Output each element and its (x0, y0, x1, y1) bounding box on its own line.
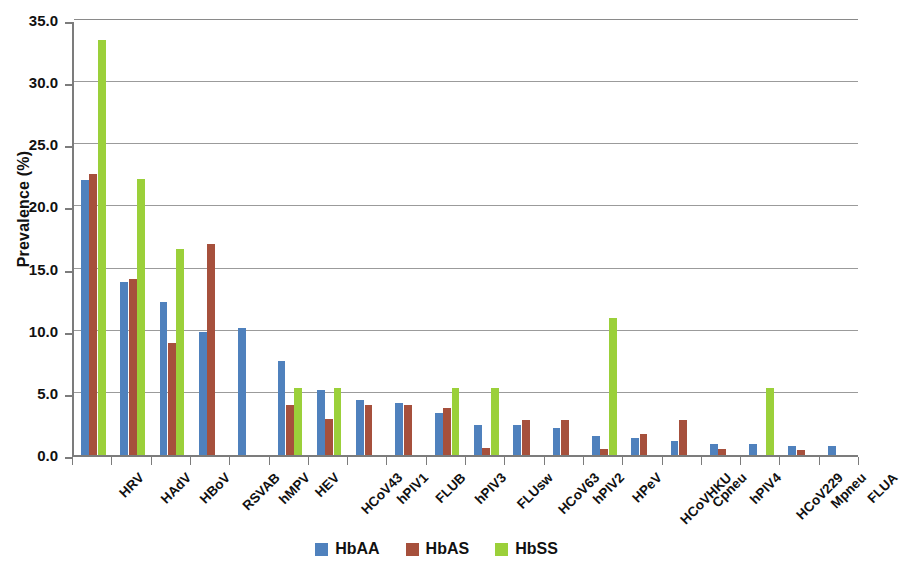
x-tick-mark (426, 457, 427, 465)
y-tick-label: 30.0 (0, 74, 58, 91)
legend-label: HbAA (335, 540, 379, 558)
x-tick-mark (544, 457, 545, 465)
bar (325, 419, 333, 455)
gridline (74, 268, 858, 269)
gridline (74, 143, 858, 144)
bar (600, 449, 608, 455)
x-tick-mark (504, 457, 505, 465)
x-tick-mark (819, 457, 820, 465)
y-tick-mark (65, 457, 72, 459)
x-tick-label: HEV (312, 470, 342, 500)
legend-item[interactable]: HbAS (406, 540, 470, 558)
bar (81, 180, 89, 455)
bar (482, 448, 490, 455)
bar (435, 413, 443, 455)
bar (238, 328, 246, 455)
gridline (74, 330, 858, 331)
bar (365, 405, 373, 455)
x-tick-label: HAdV (158, 470, 195, 507)
y-tick-mark (65, 208, 72, 210)
x-tick-label: hMPV (276, 470, 313, 507)
bar (395, 403, 403, 455)
x-tick-mark (190, 457, 191, 465)
y-tick-label: 25.0 (0, 136, 58, 153)
bar (679, 420, 687, 455)
y-tick-mark (65, 146, 72, 148)
bar (98, 40, 106, 455)
y-tick-label: 10.0 (0, 323, 58, 340)
bar (356, 400, 364, 455)
legend-swatch-icon (495, 543, 508, 556)
bar (286, 405, 294, 455)
y-tick-mark (65, 84, 72, 86)
x-tick-mark (308, 457, 309, 465)
x-tick-label: hPIV4 (747, 470, 784, 507)
x-tick-mark (347, 457, 348, 465)
legend-label: HbSS (515, 540, 558, 558)
bar (631, 438, 639, 455)
bar (443, 408, 451, 455)
bar (334, 388, 342, 455)
bar (766, 388, 774, 455)
bar (710, 444, 718, 455)
bar (137, 179, 145, 455)
bar (788, 446, 796, 455)
bar (609, 318, 617, 455)
x-tick-mark (779, 457, 780, 465)
bar (522, 420, 530, 455)
bar (278, 361, 286, 455)
bar (168, 343, 176, 455)
legend-item[interactable]: HbSS (495, 540, 558, 558)
x-tick-mark (858, 457, 859, 465)
bar (513, 425, 521, 455)
chart-legend: HbAAHbASHbSS (0, 540, 873, 558)
bar (474, 425, 482, 455)
plot-area (72, 22, 858, 457)
gridline (74, 19, 858, 20)
legend-item[interactable]: HbAA (315, 540, 379, 558)
gridline (74, 81, 858, 82)
bar (317, 390, 325, 455)
x-tick-mark (662, 457, 663, 465)
y-tick-label: 15.0 (0, 261, 58, 278)
x-tick-label: HRV (116, 470, 147, 501)
y-tick-mark (65, 22, 72, 24)
y-tick-label: 5.0 (0, 385, 58, 402)
y-tick-label: 35.0 (0, 12, 58, 29)
x-tick-mark (151, 457, 152, 465)
gridline (74, 205, 858, 206)
bar (176, 249, 184, 455)
x-tick-mark (269, 457, 270, 465)
x-tick-label: HBoV (197, 470, 234, 507)
bar (294, 388, 302, 455)
x-tick-mark (111, 457, 112, 465)
bar (592, 436, 600, 455)
x-tick-mark (622, 457, 623, 465)
bar (207, 244, 215, 455)
x-tick-label: HPeV (629, 470, 665, 506)
x-tick-label: FLUB (433, 470, 469, 506)
x-tick-mark (465, 457, 466, 465)
bar (404, 405, 412, 455)
bar (129, 279, 137, 455)
x-tick-mark (386, 457, 387, 465)
legend-swatch-icon (315, 543, 328, 556)
y-tick-label: 0.0 (0, 447, 58, 464)
x-tick-label: RSVAB (239, 470, 282, 513)
bar (160, 302, 168, 455)
legend-swatch-icon (406, 543, 419, 556)
bar (749, 444, 757, 455)
bar (120, 282, 128, 455)
bar (561, 420, 569, 455)
x-tick-mark (583, 457, 584, 465)
x-tick-label: FLUA (865, 470, 901, 506)
bar (553, 428, 561, 455)
bar (89, 174, 97, 455)
x-tick-mark (72, 457, 73, 465)
x-tick-mark (229, 457, 230, 465)
bar (828, 446, 836, 455)
x-tick-label: FLUsw (514, 470, 556, 512)
bar (671, 441, 679, 455)
y-tick-mark (65, 333, 72, 335)
